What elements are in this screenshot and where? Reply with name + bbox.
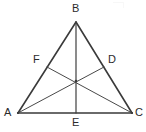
point-C-dot xyxy=(131,112,133,114)
label-E: E xyxy=(72,117,79,128)
label-B: B xyxy=(72,3,79,14)
median-AD xyxy=(18,67,104,113)
label-D: D xyxy=(108,54,116,65)
point-A-dot xyxy=(17,112,19,114)
label-C: C xyxy=(135,107,143,118)
median-CF xyxy=(47,67,132,113)
label-F: F xyxy=(33,54,40,65)
label-A: A xyxy=(4,107,11,118)
triangle-medians-diagram xyxy=(0,0,146,132)
scan-artifact xyxy=(113,2,124,8)
centroid-point xyxy=(75,80,78,83)
geometry-figure: B F D A C E xyxy=(0,0,146,132)
